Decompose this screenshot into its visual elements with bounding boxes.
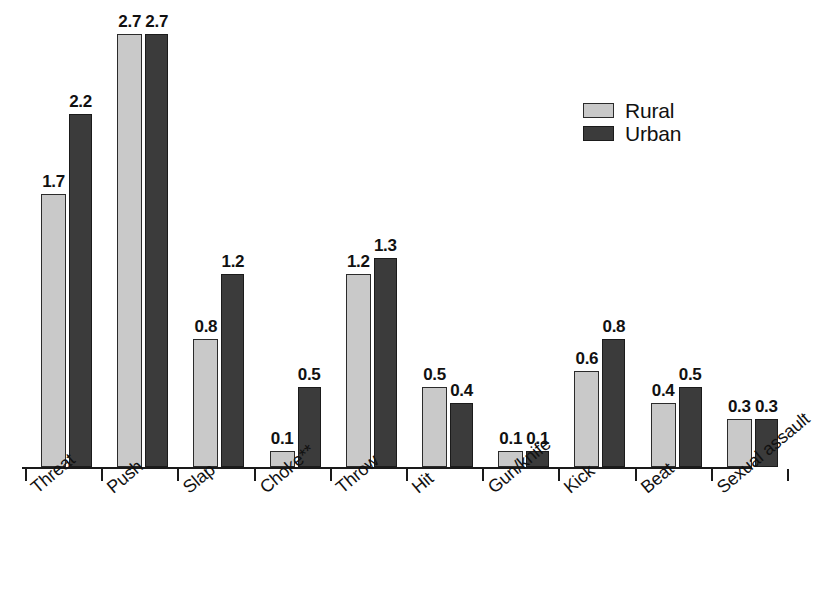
- bar-rural-7: 0.6: [574, 371, 599, 467]
- bar-value-label: 2.7: [118, 12, 141, 32]
- bar-value-label: 0.5: [423, 365, 446, 385]
- x-axis-tick-8: [635, 469, 637, 481]
- bar-value-label: 0.6: [576, 349, 599, 369]
- bar-value-label: 2.7: [145, 12, 168, 32]
- bar-value-label: 1.2: [347, 252, 370, 272]
- x-axis-tick-0: [25, 469, 27, 481]
- bar-rural-1: 2.7: [117, 34, 142, 467]
- x-axis-tick-1: [101, 469, 103, 481]
- bar-rural-4: 1.2: [346, 274, 371, 467]
- bar-rural-2: 0.8: [193, 339, 218, 467]
- bar-value-label: 0.3: [728, 397, 751, 417]
- bar-urban-7: 0.8: [602, 339, 625, 467]
- bar-value-label: 0.5: [679, 365, 702, 385]
- bar-rural-8: 0.4: [651, 403, 676, 467]
- bar-value-label: 1.3: [374, 236, 397, 256]
- bar-urban-8: 0.5: [679, 387, 702, 467]
- bar-value-label: 0.4: [450, 381, 473, 401]
- bar-value-label: 1.2: [222, 252, 245, 272]
- x-axis-tick-4: [330, 469, 332, 481]
- bar-value-label: 1.7: [42, 172, 65, 192]
- chart-legend: Rural Urban: [583, 99, 681, 145]
- x-axis-tick-3: [254, 469, 256, 481]
- x-axis-label-5: Hit: [408, 468, 438, 498]
- legend-label-rural: Rural: [625, 100, 674, 121]
- legend-swatch-rural: [583, 103, 614, 118]
- bar-urban-1: 2.7: [145, 34, 168, 467]
- bar-rural-0: 1.7: [41, 194, 66, 467]
- bar-value-label: 0.3: [755, 397, 778, 417]
- bar-value-label: 0.5: [298, 365, 321, 385]
- x-axis-label-3: Choke**: [256, 440, 319, 498]
- legend-item-rural: Rural: [583, 99, 681, 122]
- bar-urban-2: 1.2: [221, 274, 244, 467]
- x-axis-tick-10: [787, 469, 789, 481]
- bar-value-label: 0.1: [499, 429, 522, 449]
- x-axis-tick-2: [177, 469, 179, 481]
- x-axis-tick-9: [711, 469, 713, 481]
- x-axis-tick-5: [406, 469, 408, 481]
- bar-value-label: 2.2: [69, 92, 92, 112]
- bar-value-label: 0.1: [271, 429, 294, 449]
- plot-area: 1.72.22.72.70.81.20.10.51.21.30.50.40.10…: [0, 0, 770, 470]
- bar-value-label: 0.4: [652, 381, 675, 401]
- bar-rural-5: 0.5: [422, 387, 447, 467]
- legend-swatch-urban: [583, 126, 614, 141]
- x-axis-tick-6: [482, 469, 484, 481]
- bar-value-label: 0.8: [195, 317, 218, 337]
- bar-urban-5: 0.4: [450, 403, 473, 467]
- bar-urban-0: 2.2: [69, 114, 92, 467]
- bar-value-label: 0.8: [603, 317, 626, 337]
- legend-item-urban: Urban: [583, 122, 681, 145]
- legend-label-urban: Urban: [625, 123, 681, 144]
- bar-urban-4: 1.3: [374, 258, 397, 467]
- x-axis-tick-7: [558, 469, 560, 481]
